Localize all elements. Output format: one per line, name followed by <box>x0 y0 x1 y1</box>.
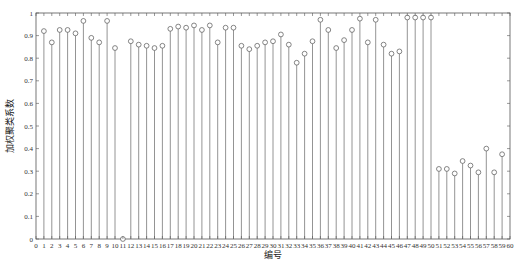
x-tick-label: 22 <box>206 242 214 250</box>
stem-chart: 0123456789101112131415161718192021222324… <box>0 0 520 266</box>
stem-marker <box>247 47 252 52</box>
stem-marker <box>334 46 339 51</box>
x-tick-label: 18 <box>175 242 183 250</box>
x-tick-label: 56 <box>475 242 483 250</box>
x-tick-label: 28 <box>254 242 262 250</box>
x-tick-label: 31 <box>277 242 285 250</box>
y-tick-label: 0.6 <box>24 100 33 108</box>
stem-marker <box>271 39 276 44</box>
x-tick-label: 36 <box>317 242 325 250</box>
x-tick-label: 30 <box>270 242 278 250</box>
x-tick-label: 23 <box>214 242 222 250</box>
x-tick-label: 3 <box>58 242 62 250</box>
x-tick-label: 0 <box>34 242 38 250</box>
x-tick-label: 48 <box>412 242 420 250</box>
stem-marker <box>397 49 402 54</box>
y-tick-label: 0.8 <box>24 55 33 63</box>
x-tick-label: 35 <box>309 242 317 250</box>
stem-marker <box>500 152 505 157</box>
stem-marker <box>136 42 141 47</box>
x-tick-label: 46 <box>396 242 404 250</box>
stem-marker <box>286 42 291 47</box>
y-axis-ticks: 00.10.20.30.40.50.60.70.80.91 <box>24 10 510 244</box>
y-axis-label: 加权聚类系数 <box>4 99 15 153</box>
stem-marker <box>381 42 386 47</box>
stem-marker <box>484 146 489 151</box>
stem-marker <box>207 23 212 28</box>
stem-marker <box>81 19 86 24</box>
x-tick-label: 17 <box>167 242 175 250</box>
stem-series <box>42 15 505 241</box>
x-tick-label: 55 <box>467 242 475 250</box>
stem-marker <box>113 46 118 51</box>
stem-marker <box>302 51 307 56</box>
x-tick-label: 50 <box>428 242 436 250</box>
x-tick-label: 38 <box>333 242 341 250</box>
stem-marker <box>476 170 481 175</box>
x-tick-label: 2 <box>50 242 54 250</box>
x-tick-label: 60 <box>507 242 515 250</box>
x-tick-label: 8 <box>97 242 101 250</box>
x-tick-label: 40 <box>349 242 357 250</box>
x-tick-label: 47 <box>404 242 412 250</box>
stem-marker <box>176 24 181 29</box>
x-tick-label: 27 <box>246 242 254 250</box>
x-tick-label: 13 <box>135 242 143 250</box>
stem-marker <box>200 28 205 33</box>
x-tick-label: 25 <box>230 242 238 250</box>
x-tick-label: 16 <box>159 242 167 250</box>
y-tick-label: 0 <box>30 236 34 244</box>
stem-marker <box>452 171 457 176</box>
x-tick-label: 12 <box>127 242 135 250</box>
x-tick-label: 51 <box>435 242 443 250</box>
x-tick-label: 53 <box>451 242 459 250</box>
x-tick-label: 33 <box>293 242 301 250</box>
stem-marker <box>49 40 54 45</box>
stem-marker <box>97 40 102 45</box>
stem-marker <box>279 32 284 37</box>
y-tick-label: 0.9 <box>24 32 33 40</box>
y-tick-label: 0.1 <box>24 213 33 221</box>
stem-marker <box>168 26 173 31</box>
x-tick-label: 43 <box>372 242 380 250</box>
x-axis-label: 编号 <box>264 249 282 260</box>
x-tick-label: 29 <box>262 242 270 250</box>
x-tick-label: 49 <box>420 242 428 250</box>
stem-marker <box>492 170 497 175</box>
stem-marker <box>437 167 442 172</box>
y-tick-label: 0.4 <box>24 145 33 153</box>
x-tick-label: 1 <box>42 242 46 250</box>
x-tick-label: 42 <box>364 242 372 250</box>
x-tick-label: 34 <box>301 242 309 250</box>
stem-marker <box>350 28 355 33</box>
y-tick-label: 0.2 <box>24 190 33 198</box>
stem-marker <box>326 28 331 33</box>
x-tick-label: 24 <box>222 242 230 250</box>
stem-marker <box>358 16 363 21</box>
stem-marker <box>373 17 378 22</box>
x-tick-label: 39 <box>341 242 349 250</box>
x-tick-label: 5 <box>74 242 78 250</box>
x-tick-label: 37 <box>325 242 333 250</box>
x-tick-label: 57 <box>483 242 491 250</box>
stem-marker <box>65 28 70 33</box>
stem-marker <box>215 40 220 45</box>
x-tick-label: 15 <box>151 242 159 250</box>
stem-marker <box>255 43 260 48</box>
x-tick-label: 58 <box>491 242 499 250</box>
stem-marker <box>223 25 228 30</box>
stem-marker <box>152 46 157 51</box>
y-tick-label: 0.7 <box>24 77 33 85</box>
stem-marker <box>57 28 62 33</box>
x-axis-ticks: 0123456789101112131415161718192021222324… <box>34 13 514 250</box>
stem-marker <box>144 43 149 48</box>
stem-marker <box>73 31 78 36</box>
stem-marker <box>365 40 370 45</box>
stem-marker <box>231 25 236 30</box>
x-tick-label: 41 <box>356 242 364 250</box>
stem-marker <box>160 43 165 48</box>
y-tick-label: 1 <box>30 10 34 18</box>
x-tick-label: 59 <box>499 242 507 250</box>
stem-marker <box>342 38 347 43</box>
x-tick-label: 19 <box>183 242 191 250</box>
